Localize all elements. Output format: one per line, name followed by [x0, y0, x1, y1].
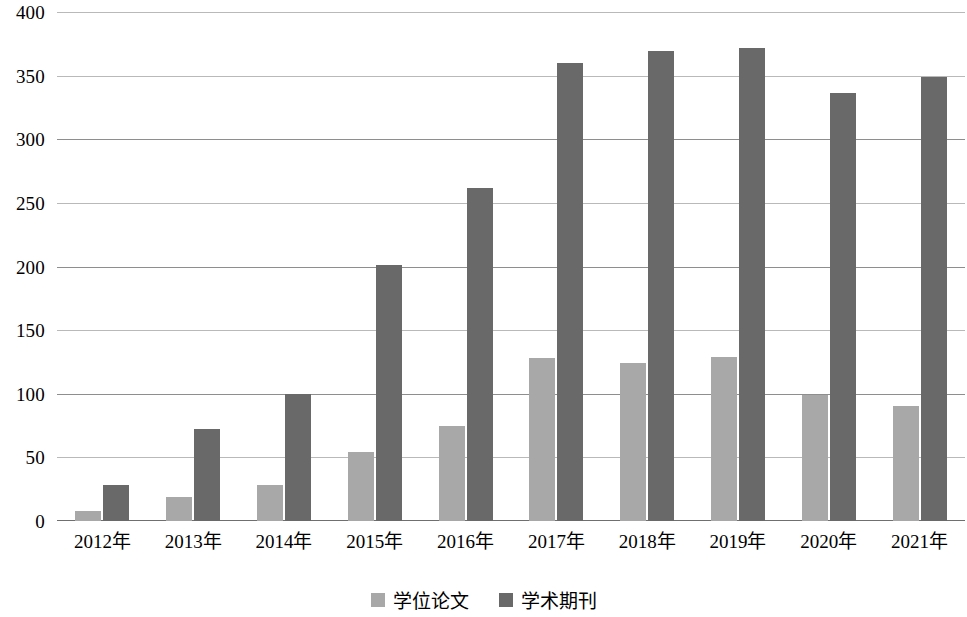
bar	[529, 358, 555, 521]
bar	[194, 429, 220, 521]
bar	[557, 63, 583, 521]
y-axis-tick-label: 350	[16, 66, 45, 85]
y-axis-tick-label: 150	[16, 321, 45, 340]
bar	[376, 265, 402, 521]
legend-item[interactable]: 学术期刊	[499, 586, 597, 613]
bar	[103, 485, 129, 521]
bar	[439, 426, 465, 521]
y-axis-tick-label: 250	[16, 193, 45, 212]
x-axis-tick-label: 2019年	[693, 527, 784, 567]
legend-label: 学术期刊	[521, 586, 597, 613]
bar-chart: 400350300250200150100500 2012年2013年2014年…	[0, 0, 967, 617]
legend-swatch-icon	[371, 593, 385, 607]
chart-legend: 学位论文学术期刊	[0, 586, 967, 613]
bar-group	[511, 12, 602, 521]
x-axis-tick-label: 2018年	[602, 527, 693, 567]
bar-group	[148, 12, 239, 521]
y-axis-tick-label: 0	[35, 512, 45, 531]
bar	[166, 497, 192, 521]
plot-area	[57, 12, 965, 521]
bar	[285, 394, 311, 521]
bar	[802, 395, 828, 521]
bar	[893, 406, 919, 521]
y-axis-tick-label: 400	[16, 3, 45, 22]
y-axis-tick-label: 200	[16, 257, 45, 276]
bar	[921, 77, 947, 521]
bar	[711, 357, 737, 521]
bar-group	[874, 12, 965, 521]
x-axis-tick-label: 2014年	[239, 527, 330, 567]
y-axis-tick-label: 100	[16, 384, 45, 403]
bar	[830, 93, 856, 521]
bar-groups	[57, 12, 965, 521]
bar-group	[602, 12, 693, 521]
x-axis-tick-label: 2020年	[783, 527, 874, 567]
bar-group	[420, 12, 511, 521]
legend-label: 学位论文	[393, 586, 469, 613]
bar-group	[329, 12, 420, 521]
x-axis-tick-label: 2012年	[57, 527, 148, 567]
x-axis-tick-label: 2017年	[511, 527, 602, 567]
bar-group	[693, 12, 784, 521]
y-axis: 400350300250200150100500	[0, 0, 57, 617]
legend-swatch-icon	[499, 593, 513, 607]
bar	[739, 48, 765, 521]
bar-group	[57, 12, 148, 521]
x-axis-tick-label: 2013年	[148, 527, 239, 567]
x-axis-tick-label: 2021年	[874, 527, 965, 567]
bar-group	[239, 12, 330, 521]
y-axis-tick-label: 50	[26, 448, 45, 467]
legend-item[interactable]: 学位论文	[371, 586, 469, 613]
bar	[75, 511, 101, 521]
bar	[467, 188, 493, 521]
x-axis-labels: 2012年2013年2014年2015年2016年2017年2018年2019年…	[57, 527, 965, 567]
x-axis-tick-label: 2015年	[329, 527, 420, 567]
bar	[648, 51, 674, 521]
y-axis-tick-label: 300	[16, 130, 45, 149]
bar	[620, 363, 646, 521]
bar	[348, 452, 374, 521]
bar-group	[783, 12, 874, 521]
bar	[257, 485, 283, 521]
x-axis-tick-label: 2016年	[420, 527, 511, 567]
